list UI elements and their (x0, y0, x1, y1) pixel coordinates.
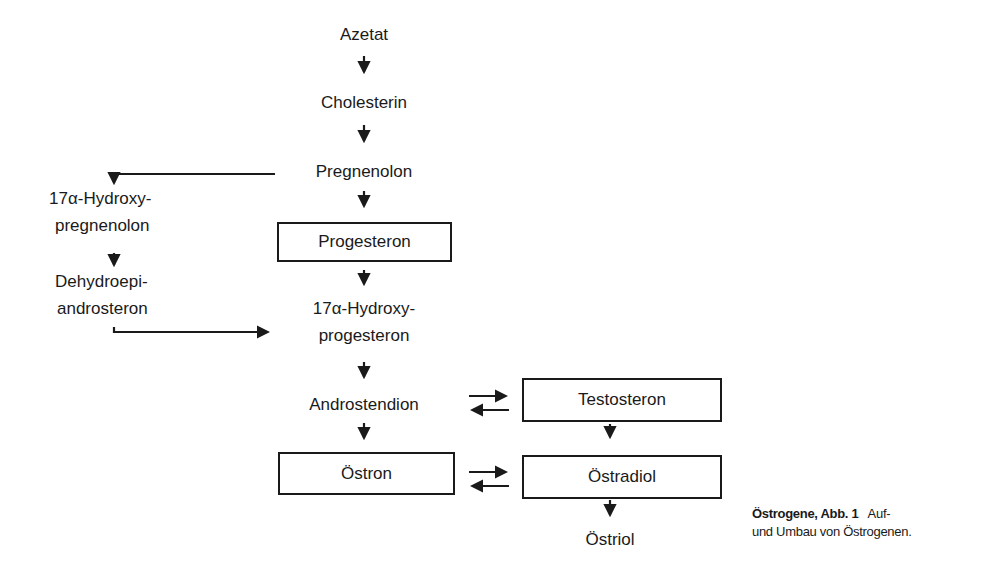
node-progesteron: Progesteron (318, 232, 411, 252)
node-oestradiol-box: Östradiol (522, 455, 722, 499)
figure-caption: Östrogene, Abb. 1 Auf- und Umbau von Öst… (752, 505, 911, 541)
node-hydroxyprogesteron-line2: progesteron (294, 325, 434, 347)
node-azetat: Azetat (314, 24, 414, 46)
node-hydroxypregnenolon-line1: 17α-Hydroxy- (49, 188, 151, 210)
caption-text-line2: und Umbau von Östrogenen. (752, 524, 911, 539)
node-dhea-line1: Dehydroepi- (55, 271, 148, 293)
node-pregnenolon: Pregnenolon (294, 161, 434, 183)
node-androstendion: Androstendion (284, 394, 444, 416)
caption-text-line1: Auf- (868, 506, 891, 521)
node-testosteron: Testosteron (578, 390, 666, 410)
node-hydroxypregnenolon-line2: pregnenolon (55, 215, 150, 237)
arrow-layer (0, 0, 1005, 576)
caption-title: Östrogene, Abb. 1 (752, 506, 858, 521)
node-oestradiol: Östradiol (588, 467, 656, 487)
node-testosteron-box: Testosteron (522, 378, 722, 422)
node-hydroxyprogesteron-line1: 17α-Hydroxy- (294, 298, 434, 320)
node-cholesterin: Cholesterin (304, 92, 424, 114)
arrow-dhea-hydroxyprogesteron (114, 327, 268, 332)
node-dhea-line2: androsteron (57, 298, 148, 320)
arrow-pregnenolon-hydroxypregnenolon (114, 174, 275, 183)
node-progesteron-box: Progesteron (277, 222, 452, 262)
node-oestron: Östron (341, 464, 392, 484)
node-oestron-box: Östron (278, 452, 455, 495)
node-oestriol: Östriol (560, 529, 660, 551)
